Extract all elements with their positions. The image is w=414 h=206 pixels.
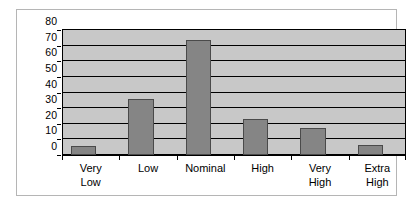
y-axis-tick-mark	[57, 155, 61, 156]
y-axis-tick-label: 30	[31, 94, 57, 104]
bar-slot	[350, 30, 407, 155]
y-axis-tick-label: 20	[31, 110, 57, 120]
x-axis-category-label-line: Low	[62, 176, 119, 190]
x-axis-category-label-line: Extra	[349, 162, 406, 176]
x-axis-category-label: VeryHigh	[291, 162, 348, 189]
x-axis-tick-mark	[177, 156, 178, 160]
y-axis-tick-label: 50	[31, 63, 57, 73]
y-axis-tick-mark	[57, 108, 61, 109]
bars-layer	[63, 30, 405, 155]
y-axis-tick-mark	[57, 46, 61, 47]
y-axis-tick-label: 40	[31, 79, 57, 89]
x-axis-category-label: Low	[119, 162, 176, 176]
bar[interactable]	[243, 119, 268, 155]
y-axis-tick-mark	[57, 124, 61, 125]
figure-frame: 01020304050607080 VeryLowLowNominalHighV…	[16, 9, 397, 196]
bar-slot	[292, 30, 349, 155]
plot-area	[62, 29, 406, 156]
x-axis-category-label: Nominal	[177, 162, 234, 176]
bar[interactable]	[186, 40, 211, 155]
y-axis-tick-label: 0	[31, 141, 57, 151]
bar-slot	[178, 30, 235, 155]
y-axis-tick-label: 70	[31, 32, 57, 42]
x-axis-category-label-line: Low	[119, 162, 176, 176]
y-axis-tick-mark	[57, 77, 61, 78]
y-axis: 01020304050607080	[25, 29, 57, 156]
bar-slot	[63, 30, 120, 155]
x-axis-labels: VeryLowLowNominalHighVeryHighExtraHigh	[62, 162, 406, 202]
y-axis-tick-label: 60	[31, 47, 57, 57]
bar[interactable]	[358, 145, 383, 155]
x-axis-category-label-line: Very	[291, 162, 348, 176]
bar[interactable]	[128, 99, 153, 155]
x-axis-category-label: High	[234, 162, 291, 176]
x-axis-tick-mark	[234, 156, 235, 160]
x-axis-category-label-line: Very	[62, 162, 119, 176]
x-axis-category-label-line: Nominal	[177, 162, 234, 176]
x-axis-tick-mark	[62, 156, 63, 160]
x-axis-category-label: ExtraHigh	[349, 162, 406, 189]
bar-slot	[235, 30, 292, 155]
y-axis-tick-label: 80	[31, 16, 57, 26]
y-axis-tick-mark	[57, 30, 61, 31]
x-axis-category-label: VeryLow	[62, 162, 119, 189]
y-axis-tick-mark	[57, 61, 61, 62]
bar[interactable]	[300, 128, 325, 155]
x-axis-category-label-line: High	[291, 176, 348, 190]
y-axis-tick-mark	[57, 93, 61, 94]
bar[interactable]	[71, 146, 96, 155]
x-axis-tick-mark	[349, 156, 350, 160]
x-axis-tick-mark	[291, 156, 292, 160]
x-axis-tick-mark	[405, 156, 406, 160]
chart-figure: 01020304050607080 VeryLowLowNominalHighV…	[0, 0, 414, 206]
y-axis-tick-label: 10	[31, 125, 57, 135]
y-axis-tick-mark	[57, 139, 61, 140]
bar-slot	[120, 30, 177, 155]
x-axis-tick-mark	[119, 156, 120, 160]
x-axis-category-label-line: High	[349, 176, 406, 190]
x-axis-category-label-line: High	[234, 162, 291, 176]
x-axis-ticks	[62, 156, 406, 161]
